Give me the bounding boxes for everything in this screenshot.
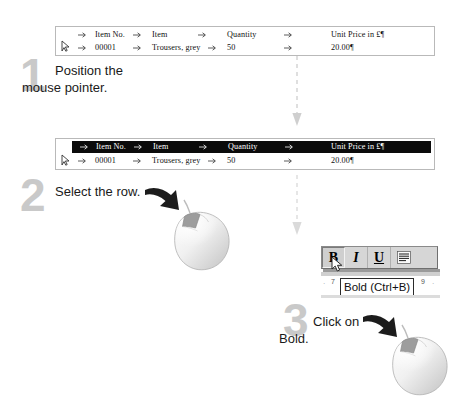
tooltip-bold: Bold (Ctrl+B) (340, 278, 414, 296)
cell-quantity: 50 (227, 155, 235, 166)
justify-icon (397, 251, 411, 264)
header-cell-quantity: Quantity (227, 29, 256, 40)
step-caption-1-line1: Position the (55, 62, 123, 79)
step-caption-1-line2: mouse pointer. (22, 79, 107, 96)
header-cell-unit-price: Unit Price in £¶ (331, 29, 384, 40)
cell-item: Trousers, grey (152, 155, 200, 166)
underline-button[interactable]: U (368, 247, 391, 268)
header-cell-item-no: Item No. (95, 29, 125, 40)
table-header-row-selected[interactable]: Item No. Item Quantity Unit Price in £¶ (72, 141, 431, 153)
cell-unit-price-text: 20.00 (331, 156, 350, 165)
tab-arrow-icon (199, 144, 208, 150)
header-cell-item-no: Item No. (96, 141, 126, 152)
header-cell-quantity: Quantity (228, 141, 257, 152)
cell-unit-price-text: 20.00 (331, 43, 350, 52)
pilcrow-mark: ¶ (350, 156, 354, 165)
tab-arrow-icon (284, 158, 293, 164)
tab-arrow-icon (198, 32, 207, 38)
justify-button[interactable] (391, 247, 416, 268)
ruler-mark-9: 9 (421, 278, 425, 285)
step-caption-3-line2: Bold. (279, 330, 309, 347)
tab-arrow-icon (134, 144, 143, 150)
tab-arrow-icon (284, 45, 293, 51)
mouse-pointer-cursor-icon (331, 256, 344, 273)
cell-item-no: 00001 (95, 42, 116, 53)
ruler-mark-7: 7 (331, 278, 335, 285)
ruler-tick-left: · (323, 280, 325, 287)
pilcrow-mark: ¶ (380, 142, 384, 151)
tab-arrow-icon (285, 144, 294, 150)
connector-step2-to-step3 (290, 175, 304, 237)
tab-arrow-icon (78, 158, 87, 164)
header-cell-item: Item (152, 29, 167, 40)
table-data-row[interactable]: 00001 Trousers, grey 50 20.00¶ (56, 154, 434, 167)
ruler-underbar (321, 295, 440, 298)
tab-arrow-icon (133, 45, 142, 51)
ruler-tick-right: · (432, 280, 434, 287)
tab-arrow-icon (208, 158, 217, 164)
pilcrow-mark: ¶ (350, 43, 354, 52)
pointer-arrow-step2 (143, 184, 191, 220)
cell-unit-price: 20.00¶ (331, 42, 354, 53)
header-cell-unit-price-text: Unit Price in £ (331, 30, 380, 39)
header-cell-unit-price: Unit Price in £¶ (331, 141, 384, 152)
document-table-step2[interactable]: Item No. Item Quantity Unit Price in £¶ … (55, 138, 435, 170)
cell-unit-price: 20.00¶ (331, 155, 354, 166)
table-data-row[interactable]: 00001 Trousers, grey 50 20.00¶ (56, 41, 434, 54)
tab-arrow-icon (78, 32, 87, 38)
header-cell-unit-price-text: Unit Price in £ (331, 142, 380, 151)
tab-arrow-icon (208, 45, 217, 51)
pilcrow-mark: ¶ (380, 30, 384, 39)
tab-arrow-icon (78, 45, 87, 51)
header-cell-item: Item (153, 141, 168, 152)
italic-button[interactable]: I (345, 247, 368, 268)
tab-arrow-icon (284, 32, 293, 38)
tab-arrow-icon (133, 32, 142, 38)
step-caption-2-line1: Select the row. (55, 183, 140, 200)
step-number-2: 2 (20, 172, 45, 218)
pointer-arrow-step3 (361, 311, 409, 347)
connector-step1-to-step2 (290, 56, 304, 128)
cell-quantity: 50 (227, 42, 235, 53)
tab-arrow-icon (133, 158, 142, 164)
document-table-step1[interactable]: Item No. Item Quantity Unit Price in £¶ … (55, 26, 435, 56)
tab-arrow-icon (80, 144, 89, 150)
table-header-row[interactable]: Item No. Item Quantity Unit Price in £¶ (56, 28, 434, 41)
step-caption-3-line1: Click on (313, 313, 359, 330)
cell-item: Trousers, grey (152, 42, 200, 53)
cell-item-no: 00001 (95, 155, 116, 166)
